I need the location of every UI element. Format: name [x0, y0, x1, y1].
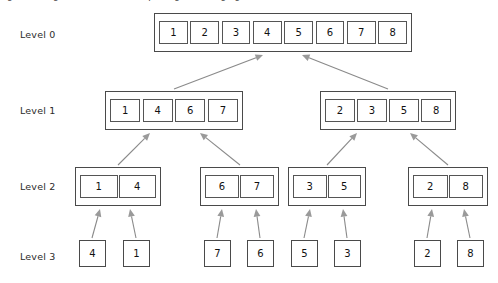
- leaf-box: 7: [204, 240, 231, 267]
- arrow-l2-g1-to-l1-left: [118, 138, 145, 165]
- arrow-leaf-2-to-l2-g4: [427, 216, 431, 238]
- leaf-box: 6: [247, 240, 274, 267]
- cell: 4: [119, 175, 157, 198]
- cell: 2: [413, 175, 448, 198]
- cell: 4: [253, 21, 282, 44]
- leaf-box: 1: [123, 240, 150, 267]
- cell: 7: [347, 21, 376, 44]
- leaf-box: 4: [79, 240, 106, 267]
- cell: 5: [328, 175, 362, 198]
- leaf-box: 5: [291, 240, 318, 267]
- level-0-group-0: 12345678: [154, 13, 412, 52]
- arrow-leaf-6-to-l2-g2: [257, 216, 260, 238]
- arrow-leaf-6-to-l2-g2-head: [254, 209, 261, 217]
- cell: 6: [175, 99, 205, 122]
- cell: 1: [159, 21, 188, 44]
- arrow-l2-g3-to-l1-right: [327, 138, 352, 165]
- level-label-2: Level 2: [20, 181, 56, 192]
- cell: 5: [284, 21, 313, 44]
- cell: 6: [205, 175, 239, 198]
- arrow-leaf-8-to-l2-g4-head: [462, 209, 469, 217]
- cell: 2: [190, 21, 219, 44]
- cell: 6: [316, 21, 345, 44]
- arrow-l2-g1-to-l1-left-head: [142, 133, 150, 141]
- merge-sort-diagram: Figure : Merge sort — recursive splittin…: [0, 0, 498, 283]
- leaf-box: 8: [457, 240, 484, 267]
- arrow-l1-right-to-l0: [309, 58, 388, 89]
- arrow-leaf-1-to-l2-g1: [132, 216, 136, 238]
- arrow-leaf-5-to-l2-g3-head: [305, 209, 312, 217]
- arrow-l2-g3-to-l1-right-head: [349, 133, 357, 141]
- arrow-l1-left-to-l0-head: [255, 55, 263, 61]
- arrow-l2-g2-to-l1-left-head: [200, 133, 208, 140]
- arrow-leaf-7-to-l2-g2: [217, 216, 221, 238]
- level-2-group-0: 14: [75, 167, 161, 206]
- arrow-leaf-3-to-l2-g3-head: [341, 209, 348, 217]
- cell: 1: [110, 99, 140, 122]
- cell: 3: [357, 99, 387, 122]
- arrow-l2-g2-to-l1-left: [206, 138, 240, 165]
- cell: 5: [389, 99, 419, 122]
- level-2-group-1: 67: [200, 167, 279, 206]
- arrow-leaf-8-to-l2-g4: [466, 216, 470, 238]
- arrow-leaf-5-to-l2-g3: [304, 216, 308, 238]
- level-label-1: Level 1: [20, 105, 56, 116]
- cell: 3: [222, 21, 251, 44]
- cell: 2: [325, 99, 355, 122]
- arrow-leaf-4-to-l2-g1-head: [95, 209, 102, 217]
- level-1-group-0: 1467: [105, 91, 243, 130]
- arrow-l1-right-to-l0-head: [302, 55, 310, 61]
- level-label-3: Level 3: [20, 251, 56, 262]
- arrow-leaf-1-to-l2-g1-head: [128, 209, 135, 217]
- arrow-leaf-4-to-l2-g1: [92, 216, 98, 238]
- arrow-leaf-2-to-l2-g4-head: [427, 209, 434, 217]
- level-1-group-1: 2358: [320, 91, 456, 130]
- leaf-box: 3: [334, 240, 361, 267]
- arrow-leaf-3-to-l2-g3: [344, 216, 347, 238]
- arrow-leaf-7-to-l2-g2-head: [217, 209, 224, 217]
- arrow-l2-g4-to-l1-right-head: [410, 133, 418, 140]
- cell: 8: [449, 175, 484, 198]
- leaf-box: 2: [414, 240, 441, 267]
- cell: 8: [378, 21, 407, 44]
- level-2-group-3: 28: [408, 167, 488, 206]
- figure-caption: Figure : Merge sort — recursive splittin…: [0, 0, 498, 1]
- level-2-group-2: 35: [288, 167, 366, 206]
- cell: 3: [293, 175, 327, 198]
- cell: 7: [240, 175, 274, 198]
- cell: 4: [143, 99, 173, 122]
- arrow-l1-left-to-l0: [174, 58, 256, 89]
- cell: 1: [80, 175, 118, 198]
- arrow-l2-g4-to-l1-right: [416, 138, 448, 165]
- level-label-0: Level 0: [20, 29, 56, 40]
- cell: 7: [208, 99, 238, 122]
- cell: 8: [421, 99, 451, 122]
